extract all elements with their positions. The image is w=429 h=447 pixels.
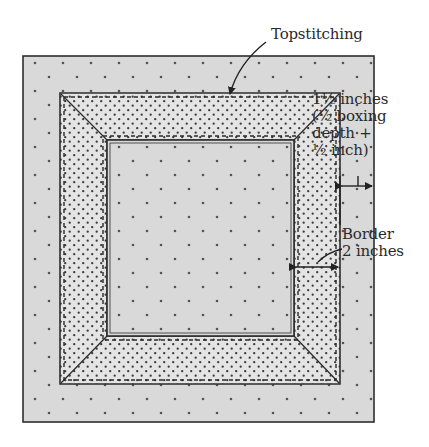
cushion-diagram: Topstitching 1½ inches (½ boxing depth +…	[0, 0, 429, 447]
boxing-seam-line4: ½ inch)	[312, 142, 388, 159]
border-label: Border 2 inches	[342, 226, 404, 260]
diagram-canvas	[0, 0, 429, 447]
boxing-seam-label: 1½ inches (½ boxing depth + ½ inch)	[312, 91, 388, 159]
boxing-seam-line1: 1½ inches	[312, 91, 388, 108]
border-line2: 2 inches	[342, 243, 404, 260]
border-line1: Border	[342, 226, 404, 243]
topstitching-text: Topstitching	[271, 25, 363, 43]
topstitching-label: Topstitching	[271, 26, 363, 43]
boxing-seam-line3: depth +	[312, 125, 388, 142]
inner-panel	[107, 140, 294, 336]
boxing-seam-line2: (½ boxing	[312, 108, 388, 125]
